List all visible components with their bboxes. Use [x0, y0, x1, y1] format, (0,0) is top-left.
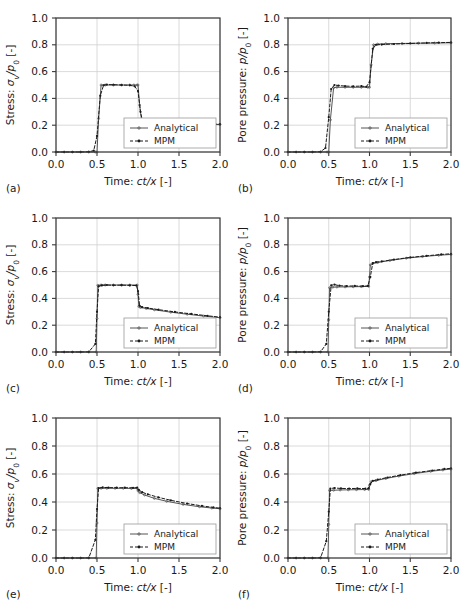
x-tick-label: 1.0 — [361, 564, 378, 576]
legend-label: MPM — [154, 542, 175, 552]
legend-label: Analytical — [385, 123, 429, 133]
x-tick-label: 1.5 — [402, 358, 419, 370]
x-tick-label: 2.0 — [443, 158, 460, 170]
x-tick-label: 2.0 — [443, 358, 460, 370]
x-tick-label: 1.5 — [402, 158, 419, 170]
legend-label: Analytical — [385, 529, 429, 539]
y-tick-label: 0.4 — [263, 292, 280, 304]
y-tick-label: 0.8 — [263, 440, 280, 452]
y-tick-label: 0.0 — [31, 552, 48, 564]
x-axis-title: Time: ct/x [-] — [335, 581, 404, 593]
chart-panel-f: 0.00.51.01.52.00.00.20.40.60.81.0Time: c… — [232, 400, 463, 606]
y-tick-label: 0.2 — [263, 524, 280, 536]
legend: AnalyticalMPM — [355, 524, 447, 554]
legend-label: MPM — [154, 336, 175, 346]
chart-panel-b: 0.00.51.01.52.00.00.20.40.60.81.0Time: c… — [232, 0, 463, 200]
x-tick-label: 1.5 — [171, 564, 188, 576]
y-tick-label: 0.6 — [31, 265, 48, 277]
y-tick-label: 1.0 — [263, 212, 280, 224]
x-tick-label: 0.5 — [320, 564, 337, 576]
legend: AnalyticalMPM — [124, 524, 216, 554]
x-axis-title: Time: ct/x [-] — [335, 175, 404, 187]
panel-tag: (c) — [6, 382, 20, 394]
y-tick-label: 0.4 — [31, 92, 48, 104]
panel-tag: (d) — [238, 382, 253, 394]
figure-grid: 0.00.51.01.52.00.00.20.40.60.81.0Time: c… — [0, 0, 463, 606]
panel-tag: (b) — [238, 182, 253, 194]
y-tick-label: 0.2 — [31, 119, 48, 131]
y-tick-label: 0.2 — [31, 319, 48, 331]
x-axis-title: Time: ct/x [-] — [103, 581, 172, 593]
y-tick-label: 1.0 — [31, 412, 48, 424]
chart-panel-c: 0.00.51.01.52.00.00.20.40.60.81.0Time: c… — [0, 200, 232, 400]
y-tick-label: 1.0 — [263, 412, 280, 424]
legend-label: MPM — [385, 136, 406, 146]
y-tick-label: 0.8 — [263, 238, 280, 250]
x-tick-label: 1.0 — [130, 158, 147, 170]
legend: AnalyticalMPM — [124, 118, 216, 148]
x-tick-label: 1.0 — [130, 564, 147, 576]
y-tick-label: 0.6 — [263, 65, 280, 77]
y-axis-title: Stress: σv/p0 [-] — [4, 245, 21, 326]
y-tick-label: 0.4 — [31, 292, 48, 304]
y-tick-label: 0.8 — [31, 238, 48, 250]
x-tick-label: 0.5 — [89, 158, 106, 170]
x-tick-label: 1.0 — [361, 358, 378, 370]
x-tick-label: 2.0 — [443, 564, 460, 576]
x-tick-label: 0.0 — [280, 358, 297, 370]
y-tick-label: 0.8 — [31, 440, 48, 452]
y-tick-label: 0.4 — [263, 92, 280, 104]
x-tick-label: 0.0 — [48, 564, 65, 576]
chart-panel-d: 0.00.51.01.52.00.00.20.40.60.81.0Time: c… — [232, 200, 463, 400]
x-tick-label: 0.5 — [320, 358, 337, 370]
x-tick-label: 0.5 — [89, 358, 106, 370]
y-tick-label: 1.0 — [263, 12, 280, 24]
x-tick-label: 1.5 — [171, 158, 188, 170]
legend: AnalyticalMPM — [355, 318, 447, 348]
y-tick-label: 0.0 — [31, 346, 48, 358]
y-tick-label: 0.6 — [263, 265, 280, 277]
legend: AnalyticalMPM — [355, 118, 447, 148]
x-tick-label: 1.0 — [130, 358, 147, 370]
panel-tag: (f) — [238, 588, 250, 600]
x-axis-title: Time: ct/x [-] — [103, 375, 172, 387]
x-tick-label: 0.0 — [280, 564, 297, 576]
legend: AnalyticalMPM — [124, 318, 216, 348]
x-axis-title: Time: ct/x [-] — [103, 175, 172, 187]
x-tick-label: 0.0 — [48, 358, 65, 370]
panel-tag: (e) — [6, 588, 21, 600]
y-tick-label: 0.2 — [263, 119, 280, 131]
y-tick-label: 0.0 — [31, 146, 48, 158]
legend-label: Analytical — [385, 323, 429, 333]
y-axis-title: Stress: σv/p0 [-] — [4, 448, 21, 529]
y-axis-title: Pore pressure: p/p0 [-] — [236, 27, 253, 142]
x-tick-label: 0.0 — [48, 158, 65, 170]
x-axis-title: Time: ct/x [-] — [335, 375, 404, 387]
y-axis-title: Pore pressure: p/p0 [-] — [236, 430, 253, 545]
y-tick-label: 0.4 — [263, 496, 280, 508]
legend-label: MPM — [154, 136, 175, 146]
x-tick-label: 2.0 — [212, 158, 229, 170]
y-tick-label: 0.4 — [31, 496, 48, 508]
y-tick-label: 0.6 — [31, 468, 48, 480]
x-tick-label: 2.0 — [212, 564, 229, 576]
y-axis-title: Stress: σv/p0 [-] — [4, 45, 21, 126]
y-tick-label: 0.0 — [263, 146, 280, 158]
y-tick-label: 0.2 — [263, 319, 280, 331]
y-tick-label: 0.0 — [263, 552, 280, 564]
y-axis-title: Pore pressure: p/p0 [-] — [236, 227, 253, 342]
y-tick-label: 1.0 — [31, 12, 48, 24]
y-tick-label: 0.0 — [263, 346, 280, 358]
x-tick-label: 1.0 — [361, 158, 378, 170]
panel-tag: (a) — [6, 182, 21, 194]
x-tick-label: 0.5 — [89, 564, 106, 576]
legend-label: MPM — [385, 336, 406, 346]
chart-panel-a: 0.00.51.01.52.00.00.20.40.60.81.0Time: c… — [0, 0, 232, 200]
legend-label: Analytical — [154, 123, 198, 133]
y-tick-label: 0.6 — [31, 65, 48, 77]
legend-label: MPM — [385, 542, 406, 552]
y-tick-label: 0.2 — [31, 524, 48, 536]
legend-label: Analytical — [154, 323, 198, 333]
x-tick-label: 0.0 — [280, 158, 297, 170]
y-tick-label: 1.0 — [31, 212, 48, 224]
